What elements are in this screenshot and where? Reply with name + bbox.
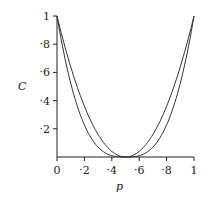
y-tick-label: 1 — [43, 10, 50, 23]
x-tick-label: ·2 — [79, 164, 90, 177]
y-tick-label: ·8 — [40, 38, 51, 51]
y-axis-label: C — [18, 80, 27, 93]
y-tick-label: ·2 — [40, 123, 51, 136]
chart: 0·2·4·6·81 ·2·4·6·81 p C — [0, 0, 208, 206]
x-tick-label: ·8 — [161, 164, 172, 177]
y-tick-label: ·4 — [40, 95, 51, 108]
plot: 0·2·4·6·81 ·2·4·6·81 p C — [0, 0, 208, 206]
curve-1 — [57, 16, 194, 157]
x-tick-label: 0 — [54, 164, 61, 177]
x-tick-label: ·6 — [134, 164, 145, 177]
x-tick-label: 1 — [191, 164, 198, 177]
x-axis-label: p — [116, 180, 123, 193]
y-tick-label: ·6 — [40, 66, 51, 79]
x-tick-label: ·4 — [107, 164, 118, 177]
